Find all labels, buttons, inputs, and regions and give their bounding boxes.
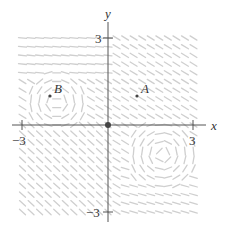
slope-segment [20,175,26,180]
slope-segment [27,64,35,65]
slope-segment [79,183,85,188]
slope-segment [182,97,189,101]
slope-segment [156,45,163,49]
slope-segment [78,64,86,65]
slope-segment [27,46,35,47]
slope-segment [173,79,180,83]
slope-segment [113,53,120,57]
slope-segment [139,175,145,180]
slope-segment [147,132,154,136]
slope-segment [122,140,129,144]
slope-segment [79,131,85,136]
slope-segment [30,104,32,112]
slope-segment [147,71,154,75]
slope-segment [156,88,163,92]
slope-segment [19,38,27,39]
slope-segment [122,45,129,49]
slope-segment [147,53,154,57]
slope-segment [130,106,137,110]
slope-segment [138,202,146,204]
points: A B [48,81,149,128]
slope-segment [79,201,85,206]
slope-segment [71,113,76,119]
slope-segment [173,53,180,57]
slope-segment [190,114,197,118]
slope-segment [122,36,129,40]
slope-segment [113,62,120,66]
slope-segment [182,88,189,92]
slope-segment [156,114,163,118]
slope-segment [132,139,135,146]
point-b-label: B [54,81,62,96]
slope-segment [174,166,180,172]
slope-segment [19,97,26,101]
slope-segment [96,72,104,73]
slope-segment [190,194,198,196]
slope-segment [45,131,51,136]
slope-segment [19,55,27,56]
slope-segment [87,72,95,73]
slope-segment [164,167,172,170]
slope-segment [148,140,154,146]
slope-segment [45,140,51,145]
slope-segment [113,140,120,144]
slope-segment [62,88,68,93]
slope-segment [62,183,68,188]
slope-segment [139,62,146,66]
slope-segment [173,88,180,92]
slope-segment [173,62,180,66]
slope-segment [121,167,129,169]
slope-segment [147,185,155,188]
slope-segment [54,166,60,171]
slope-segment [97,183,103,188]
slope-segment [70,55,78,56]
slope-segment [130,114,137,118]
slope-segment [29,87,32,94]
slope-segment [45,192,51,197]
slope-segment [36,38,44,39]
slope-segment [96,106,103,110]
slope-segment [190,79,197,83]
slope-segment [130,36,137,40]
slope-segment [79,140,85,145]
slope-segment [79,192,85,197]
slope-segment [45,166,51,171]
slope-segment [20,166,26,171]
slope-segment [157,148,163,154]
slope-segment [71,183,77,188]
slope-segment [190,71,197,75]
slope-segment [37,148,43,153]
slope-segment [122,97,129,101]
slope-segment [96,64,104,65]
slope-segment [113,45,120,49]
slope-segment [28,131,34,136]
slope-segment [28,175,34,180]
slope-segment [88,79,95,83]
slope-segment [37,192,43,197]
slope-segment [37,183,43,188]
slope-segment [28,201,34,206]
slope-segment [139,106,146,110]
slope-segment [28,157,34,162]
slope-segment [71,166,77,171]
slope-segment [88,192,94,197]
slope-segment [147,45,154,49]
slope-segment [19,64,27,65]
slope-segment [96,55,104,56]
slope-segment [54,183,60,188]
slope-segment [96,114,103,118]
slope-segment [62,209,68,214]
slope-segment [130,185,138,187]
slope-segment [193,147,194,155]
slope-segment [79,209,85,214]
slope-segment [183,165,187,172]
slope-segment [182,36,189,40]
slope-segment [122,132,129,136]
point-a-label: A [140,81,149,96]
slope-segment [132,165,136,172]
slope-segment [37,140,43,145]
origin-point [105,122,111,128]
slope-segment [190,53,197,57]
slope-segment [130,71,137,75]
slope-segment [78,55,86,56]
